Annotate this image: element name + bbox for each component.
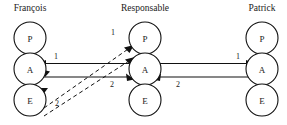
- edge-francois-a-to-resp-a: 2: [40, 74, 134, 90]
- node-label-responsable-p: P: [142, 34, 147, 44]
- edge-resp-a-to-francois-a: 1: [38, 52, 129, 67]
- node-label-francois-p: P: [27, 34, 32, 44]
- node-group-patrick: P A E: [246, 22, 278, 116]
- column-title-responsable: Responsable: [121, 3, 169, 13]
- edge-resp-a-to-patrick-a: 1: [158, 52, 254, 67]
- edge-label-1-francois: 1: [54, 52, 58, 61]
- node-label-responsable-e: E: [142, 96, 148, 106]
- edge-label-1-dashed: 1: [111, 28, 115, 37]
- node-label-patrick-a: A: [259, 65, 266, 75]
- edge-label-2-francois: 2: [110, 80, 114, 89]
- node-label-responsable-a: A: [142, 65, 149, 75]
- column-title-francois: François: [14, 3, 47, 13]
- edge-label-2-patrick: 2: [176, 80, 180, 89]
- actor-interaction-diagram: François Responsable Patrick 1 2 1 2: [0, 0, 287, 125]
- edge-label-1-patrick: 1: [236, 52, 240, 61]
- edge-francois-e-to-resp-p: 1: [44, 28, 134, 108]
- node-label-francois-e: E: [27, 96, 33, 106]
- node-label-francois-a: A: [27, 65, 34, 75]
- edge-francois-e-to-resp-a: 2: [44, 57, 135, 116]
- column-title-patrick: Patrick: [249, 3, 276, 13]
- node-label-patrick-e: E: [259, 96, 265, 106]
- diagram-canvas: François Responsable Patrick 1 2 1 2: [0, 0, 287, 125]
- node-group-francois: P A E: [14, 22, 46, 116]
- edge-patrick-a-to-resp-a: 2: [153, 74, 252, 90]
- edge-label-2-dashed: 2: [55, 99, 59, 108]
- node-group-responsable: P A E: [129, 22, 161, 116]
- node-label-patrick-p: P: [259, 34, 264, 44]
